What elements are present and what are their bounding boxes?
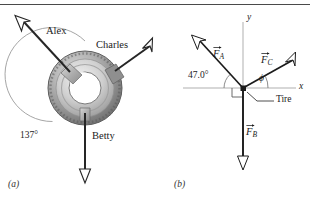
label-betty: Betty <box>92 131 115 142</box>
angle-arc-47 <box>224 75 230 89</box>
tire-callout-leader <box>247 92 274 101</box>
force-arrow-alex <box>15 16 70 73</box>
vector-subscript-FC: C <box>267 58 272 67</box>
vector-arrow-overbar-FC <box>261 51 270 56</box>
arrowhead-betty <box>80 169 91 183</box>
arrowhead-alex <box>15 16 31 32</box>
label-alex: Alex <box>46 26 66 37</box>
label-x-axis: x <box>299 82 303 92</box>
label-angle-137: 137° <box>20 131 38 141</box>
label-vector-FA: FA <box>213 48 224 61</box>
caption-panel-a: (a) <box>8 180 19 190</box>
vector-subscript-FB: B <box>252 130 257 139</box>
label-vector-FC: FC <box>261 54 272 67</box>
arrowhead-FA <box>192 35 207 50</box>
label-y-axis: y <box>247 13 251 23</box>
label-angle-phi: ϕ <box>259 74 264 84</box>
physics-figure: Alex Charles Betty 137° (a) y x 47.0° ϕ … <box>0 0 310 200</box>
angle-arc-phi <box>266 77 269 89</box>
panel-a-graphics <box>5 16 152 184</box>
vector-arrow-overbar-FB <box>246 123 255 128</box>
label-vector-FB: FB <box>246 126 257 139</box>
vector-subscript-FA: A <box>219 52 224 61</box>
label-tire-callout: Tire <box>276 95 292 105</box>
vector-arrow-overbar-FA <box>213 45 222 50</box>
label-angle-47: 47.0° <box>188 71 208 81</box>
caption-panel-b: (b) <box>174 180 185 190</box>
arrowhead-FB <box>238 156 249 170</box>
label-charles: Charles <box>96 40 128 51</box>
